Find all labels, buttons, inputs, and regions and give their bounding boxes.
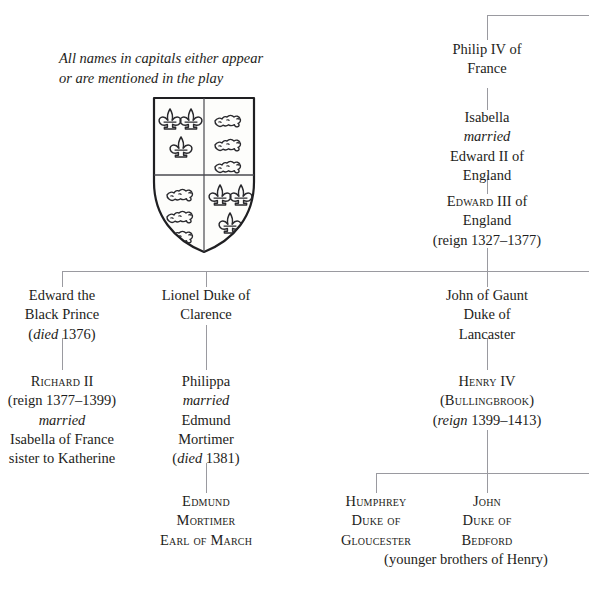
henry-iv-paren-close: ) <box>529 392 534 408</box>
connector-drop-humphrey <box>376 473 377 493</box>
henry-iv-reign: (reign 1399–1413) <box>387 411 587 430</box>
connector-edward-iii-to-siblings <box>487 248 488 271</box>
connector-philip-to-isabella <box>487 88 488 110</box>
gaunt-line-1: John of Gaunt <box>387 286 587 305</box>
gaunt-line-2: Duke of <box>387 305 587 324</box>
edward-iii-line-1: Edward III of <box>387 192 587 211</box>
philip-iv-line-2: France <box>387 59 587 78</box>
black-prince-died-label: died <box>33 326 58 342</box>
philippa-died-year: 1381) <box>202 450 239 466</box>
henry-iv-line-1: Henry IV <box>387 372 587 391</box>
node-john-of-gaunt: John of Gaunt Duke of Lancaster <box>387 286 587 344</box>
black-prince-died-year: 1376) <box>58 326 95 342</box>
philippa-line-1: Philippa <box>106 372 306 391</box>
philippa-line-4: Mortimer <box>106 430 306 449</box>
edmund-mortimer-line-2: Mortimer <box>106 511 306 530</box>
henry-iv-reign-years: 1399–1413) <box>468 412 542 428</box>
node-henry-iv: Henry IV (Bullingbrook) (reign 1399–1413… <box>387 372 587 430</box>
legend-note: All names in capitals either appear or a… <box>59 48 289 88</box>
edmund-mortimer-line-3: Earl of March <box>106 531 306 550</box>
henry-iv-reign-label: reign <box>438 412 468 428</box>
connector-philip-iv-drop <box>487 15 488 40</box>
richard-ii-name-smallcaps: Richard <box>31 373 80 389</box>
node-edward-iii: Edward III of England (reign 1327–1377) <box>387 192 587 250</box>
gaunt-line-3: Lancaster <box>387 325 587 344</box>
edward-iii-name-rest: III of <box>493 193 527 209</box>
philip-iv-line-1: Philip IV of <box>387 40 587 59</box>
connector-brothers-bar <box>376 473 589 474</box>
philippa-married-label: married <box>106 391 306 410</box>
connector-drop-john-of-gaunt <box>487 271 488 287</box>
edward-iii-reign: (reign 1327–1377) <box>387 231 587 250</box>
node-isabella-edward-ii: Isabella married Edward II of England <box>387 108 587 185</box>
isabella-line-1: Isabella <box>387 108 587 127</box>
black-prince-died: (died 1376) <box>0 325 162 344</box>
connector-top-horizontal <box>487 15 589 16</box>
henry-iv-name-rest: IV <box>497 373 516 389</box>
isabella-line-4: England <box>387 166 587 185</box>
philippa-died: (died 1381) <box>106 449 306 468</box>
connector-lionel-to-philippa <box>206 325 207 370</box>
connector-siblings-bar <box>62 271 589 272</box>
isabella-line-3: Edward II of <box>387 147 587 166</box>
royal-arms-shield <box>150 94 258 256</box>
lionel-line-1: Lionel Duke of <box>106 286 306 305</box>
bedford-line-2: Duke of <box>412 511 562 530</box>
connector-henry-iv-to-brothers <box>487 430 488 493</box>
henry-iv-name-smallcaps: Henry <box>458 373 496 389</box>
edward-iii-name-smallcaps: Edward <box>447 193 494 209</box>
node-edmund-mortimer-earl-of-march: Edmund Mortimer Earl of March <box>106 492 306 550</box>
bedford-line-3: Bedford <box>412 531 562 550</box>
richard-ii-name-rest: II <box>80 373 93 389</box>
edward-iii-line-2: England <box>387 211 587 230</box>
node-john-bedford: John Duke of Bedford <box>412 492 562 550</box>
philippa-line-3: Edmund <box>106 411 306 430</box>
legend-note-line-2: or are mentioned in the play <box>59 68 289 88</box>
henry-iv-byname: (Bullingbrook) <box>387 391 587 410</box>
henry-iv-byname-smallcaps: Bullingbrook <box>445 392 529 408</box>
lionel-line-2: Clarence <box>106 305 306 324</box>
node-lionel-clarence: Lionel Duke of Clarence <box>106 286 306 325</box>
edmund-mortimer-line-1: Edmund <box>106 492 306 511</box>
isabella-married-label: married <box>387 127 587 146</box>
node-philippa-mortimer: Philippa married Edmund Mortimer (died 1… <box>106 372 306 468</box>
philippa-died-label: died <box>177 450 202 466</box>
legend-note-line-1: All names in capitals either appear <box>59 48 289 68</box>
royal-arms-shield-svg <box>150 94 258 256</box>
node-philip-iv: Philip IV of France <box>387 40 587 79</box>
connector-drop-lionel <box>206 271 207 287</box>
bedford-line-1: John <box>412 492 562 511</box>
node-younger-brothers-note: (younger brothers of Henry) <box>341 550 589 569</box>
younger-brothers-label: (younger brothers of Henry) <box>341 550 589 569</box>
connector-drop-black-prince <box>62 271 63 287</box>
